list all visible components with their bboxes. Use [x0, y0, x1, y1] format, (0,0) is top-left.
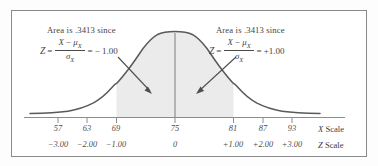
right-formula-numerator: X − μX [224, 38, 253, 50]
x-tick-label: 81 [229, 124, 237, 133]
right-formula-result: +1.00 [264, 46, 285, 56]
left-formula-fraction: X − μX σX [54, 38, 85, 63]
x-tick-label: 57 [54, 124, 62, 133]
x-tick-label: 69 [112, 124, 120, 133]
left-formula-denominator: σX [63, 51, 77, 63]
z-tick-label: −3.00 [48, 140, 68, 149]
left-formula-result: − 1.00 [95, 46, 118, 56]
right-formula-equals: = [216, 46, 221, 56]
right-formula-result-equals: = [257, 46, 262, 56]
left-formula-equals: = [47, 46, 52, 56]
z-tick-label: 0 [173, 140, 177, 149]
x-scale-label: X Scale [318, 124, 344, 134]
z-tick-label: +1.00 [223, 140, 243, 149]
right-formula-denominator: σX [232, 51, 246, 63]
left-z-formula: Z = X − μX σX = − 1.00 [40, 38, 118, 63]
left-formula-result-equals: = [88, 46, 93, 56]
x-tick-label: 93 [288, 124, 296, 133]
right-formula-z: Z [209, 45, 214, 56]
x-axis-ticks [58, 118, 292, 124]
x-scale-word: Scale [323, 124, 344, 134]
z-tick-label: −2.00 [77, 140, 97, 149]
x-tick-label: 87 [259, 124, 267, 133]
x-tick-label: 75 [171, 124, 179, 133]
left-area-caption: Area is .3413 since [47, 25, 116, 35]
z-scale-label: Z Scale [318, 140, 344, 150]
x-tick-label: 63 [83, 124, 91, 133]
z-tick-label: −1.00 [106, 140, 126, 149]
left-formula-numerator: X − μX [55, 38, 84, 50]
right-formula-fraction: X − μX σX [223, 38, 254, 63]
z-scale-word: Scale [323, 140, 344, 150]
figure-container: Area is .3413 since Z = X − μX σX = − 1.… [0, 0, 378, 166]
right-area-caption: Area is .3413 since [216, 25, 285, 35]
z-tick-label: +3.00 [282, 140, 302, 149]
left-formula-z: Z [40, 45, 45, 56]
right-z-formula: Z = X − μX σX = +1.00 [209, 38, 285, 63]
z-tick-label: +2.00 [253, 140, 273, 149]
